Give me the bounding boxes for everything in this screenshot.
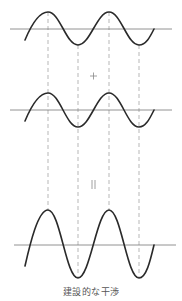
sum-wave bbox=[25, 210, 154, 278]
wave-1 bbox=[25, 12, 154, 45]
plus-operator-icon bbox=[90, 73, 97, 80]
diagram-caption: 建設的な干渉 bbox=[0, 285, 182, 298]
interference-diagram bbox=[0, 0, 182, 301]
equals-operator-icon bbox=[92, 180, 95, 189]
